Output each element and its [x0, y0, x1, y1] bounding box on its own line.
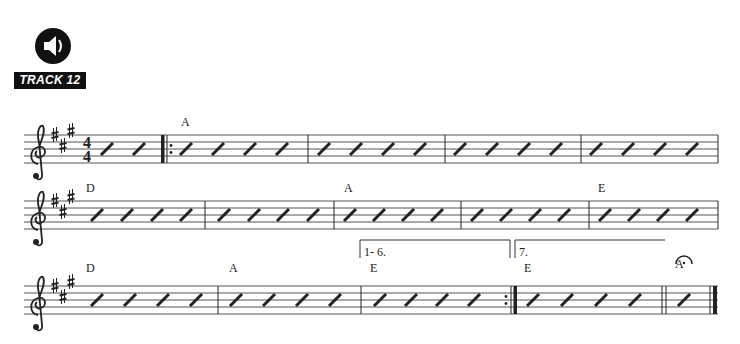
sharp-icon: [68, 189, 75, 204]
chord-symbol: A: [344, 182, 353, 194]
music-score: 4 4: [0, 0, 740, 344]
chord-symbol: E: [370, 262, 377, 274]
sharp-icon: [68, 123, 75, 138]
sharp-icon: [60, 138, 67, 153]
system-1: 4 4: [24, 123, 718, 179]
chord-symbol: D: [86, 182, 95, 194]
treble-clef-icon: [31, 192, 45, 246]
chord-symbol: A: [229, 262, 238, 274]
time-signature-bottom: 4: [83, 148, 91, 165]
sharp-icon: [68, 274, 75, 289]
ending-brackets: [360, 240, 665, 258]
second-ending-label: 7.: [519, 246, 528, 258]
chord-symbol: E: [598, 182, 605, 194]
staff-lines: [24, 135, 718, 163]
system-2: [24, 189, 718, 245]
treble-clef-icon: [31, 126, 45, 180]
sharp-icon: [60, 204, 67, 219]
chord-symbol: A: [181, 116, 190, 128]
treble-clef-icon: [31, 277, 45, 331]
chord-symbol: D: [86, 262, 95, 274]
sharp-icon: [60, 289, 67, 304]
chord-symbol: A: [675, 258, 684, 270]
chord-symbol: E: [524, 262, 531, 274]
first-ending-label: 1- 6.: [364, 246, 386, 258]
